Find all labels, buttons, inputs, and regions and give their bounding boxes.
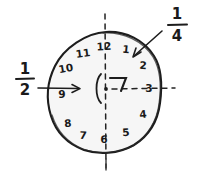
one-half-fraction-bar [16,79,34,80]
clock-numeral-10: 10 [58,61,74,75]
clock-numeral-6: 6 [100,133,108,145]
center-pivot-dot [104,87,108,91]
clock-numeral-5: 5 [122,126,130,138]
clock-numeral-4: 4 [139,108,148,121]
clock-numeral-1: 1 [122,43,131,56]
clock-numeral-12: 12 [96,40,111,53]
clock-numeral-7: 7 [79,129,87,141]
sketch-canvas: 1 2 1 4 121234567891011 [0,0,200,178]
one-quarter-numerator: 1 [172,5,182,23]
one-half-denominator: 2 [20,81,30,99]
clock-numeral-8: 8 [64,117,72,130]
clock-numeral-11: 11 [75,46,91,60]
clock-fraction-sketch: 1 2 1 4 121234567891011 [0,0,200,178]
one-half-numerator: 1 [20,60,30,78]
clock-numeral-9: 9 [58,88,65,100]
one-quarter-fraction-bar [168,25,187,26]
one-quarter-denominator: 4 [172,27,182,45]
clock-numeral-2: 2 [139,59,147,71]
clock-numeral-3: 3 [145,82,152,94]
one-quarter-annotation: 1 4 [133,5,187,58]
